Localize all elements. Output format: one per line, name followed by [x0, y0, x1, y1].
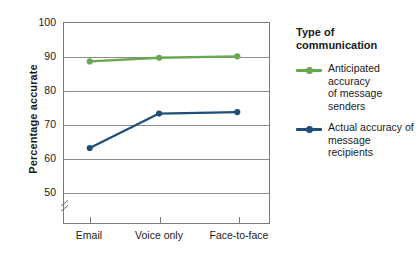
- series-layer: [64, 23, 269, 223]
- legend-label-actual-accuracy: Actual accuracy of message recipients: [328, 121, 416, 159]
- chart-legend: Type of communication Anticipated accura…: [296, 26, 416, 168]
- legend-label-anticipated-accuracy: Anticipated accuracy of message senders: [328, 62, 416, 112]
- data-point-actual-face-to-face: [234, 109, 240, 115]
- legend-swatch-blue: [296, 123, 322, 136]
- legend-entry-actual-accuracy[interactable]: Actual accuracy of message recipients: [296, 121, 416, 159]
- data-point-actual-voice-only: [156, 111, 162, 117]
- legend-label-line1: Anticipated accuracy: [328, 62, 380, 87]
- series-actual-accuracy: [87, 109, 241, 151]
- legend-label-line2: message recipients: [328, 134, 373, 159]
- legend-entry-anticipated-accuracy[interactable]: Anticipated accuracy of message senders: [296, 62, 416, 112]
- chart-figure: Percentage accurate 100 90 80 70 60 50: [0, 0, 418, 260]
- axis-break-icon: [58, 199, 72, 215]
- plot-area: [63, 22, 270, 224]
- series-anticipated-accuracy: [87, 53, 241, 64]
- legend-title: Type of communication: [296, 26, 416, 51]
- data-point-anticipated-face-to-face: [234, 53, 240, 59]
- data-point-anticipated-voice-only: [156, 55, 162, 61]
- y-tick-label-50: 50: [28, 186, 56, 198]
- data-point-anticipated-email: [87, 58, 93, 64]
- legend-swatch-green: [296, 64, 322, 77]
- data-point-actual-email: [87, 145, 93, 151]
- series-actual-line: [90, 112, 238, 148]
- y-tick-label-70: 70: [28, 118, 56, 130]
- legend-label-line2: of message senders: [328, 87, 382, 112]
- y-tick-label-100: 100: [28, 16, 56, 28]
- legend-label-line1: Actual accuracy of: [328, 121, 414, 133]
- y-tick-label-60: 60: [28, 152, 56, 164]
- x-tick-label-email: Email: [76, 229, 102, 241]
- x-tick-label-face-to-face: Face-to-face: [210, 229, 269, 241]
- y-tick-label-90: 90: [28, 50, 56, 62]
- x-tick-label-voice-only: Voice only: [135, 229, 183, 241]
- legend-dot-blue: [306, 126, 313, 133]
- y-tick-label-80: 80: [28, 84, 56, 96]
- series-anticipated-line: [90, 56, 238, 61]
- legend-dot-green: [306, 67, 313, 74]
